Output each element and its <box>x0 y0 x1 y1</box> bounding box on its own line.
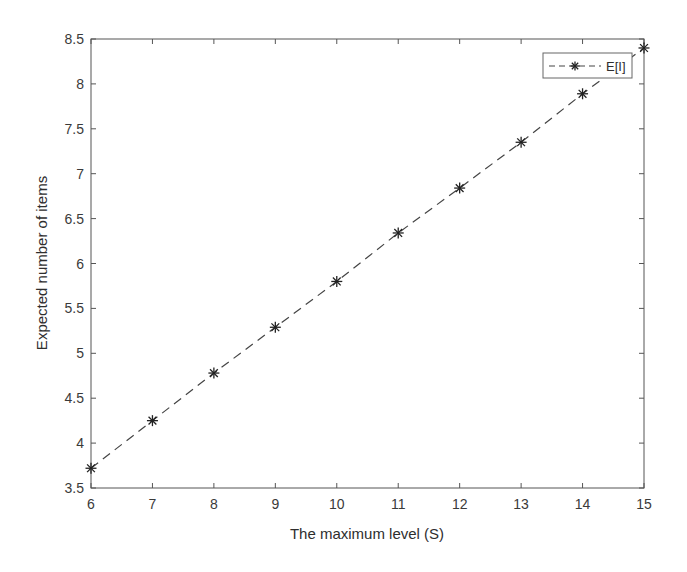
y-tick-label: 8.5 <box>65 31 85 47</box>
y-tick-label: 5.5 <box>65 300 85 316</box>
y-tick-label: 6.5 <box>65 211 85 227</box>
x-tick-label: 8 <box>210 496 218 512</box>
y-tick-label: 7 <box>76 166 84 182</box>
y-tick-label: 8 <box>76 76 84 92</box>
x-tick-label: 7 <box>149 496 157 512</box>
x-tick-label: 6 <box>87 496 95 512</box>
y-tick-label: 3.5 <box>65 480 85 496</box>
y-tick-label: 4 <box>76 435 84 451</box>
legend-label: E[I] <box>606 59 626 74</box>
x-tick-label: 15 <box>636 496 652 512</box>
y-axis-label: Expected number of items <box>33 176 50 350</box>
x-tick-label: 11 <box>391 496 406 512</box>
x-tick-label: 12 <box>452 496 468 512</box>
x-tick-label: 9 <box>271 496 279 512</box>
y-tick-label: 6 <box>76 256 84 272</box>
y-tick-label: 4.5 <box>65 390 85 406</box>
y-tick-label: 7.5 <box>65 121 85 137</box>
legend: E[I] <box>543 53 632 78</box>
x-tick-label: 13 <box>513 496 529 512</box>
x-tick-label: 14 <box>575 496 591 512</box>
asterisk-marker-icon <box>571 62 580 71</box>
y-tick-label: 5 <box>76 345 84 361</box>
axes-box <box>91 39 644 488</box>
line-chart: 6789101112131415 3.544.555.566.577.588.5… <box>0 0 687 572</box>
x-axis-label: The maximum level (S) <box>290 525 444 542</box>
x-tick-label: 10 <box>329 496 345 512</box>
